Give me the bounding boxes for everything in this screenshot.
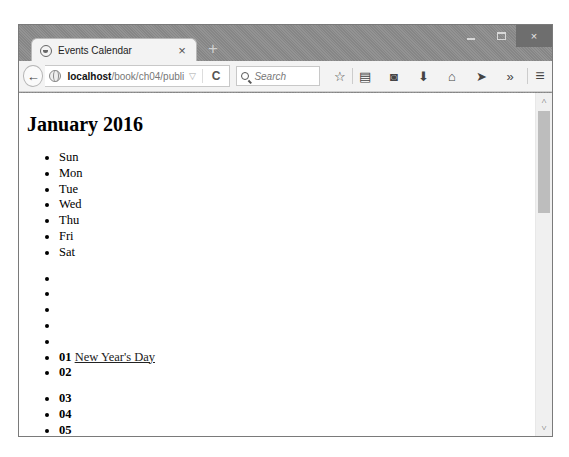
- close-window-button[interactable]: ×: [516, 25, 552, 47]
- weekday-list: Sun Mon Tue Wed Thu Fri Sat: [27, 150, 534, 261]
- vertical-scrollbar[interactable]: ˄ ˅: [535, 93, 552, 436]
- download-icon[interactable]: ⬇: [411, 65, 435, 87]
- day-number: 01: [59, 350, 72, 364]
- event-link-new-years-day[interactable]: New Year's Day: [75, 350, 155, 364]
- scroll-up-icon[interactable]: ˄: [536, 93, 552, 109]
- url-host: localhost: [67, 71, 111, 82]
- scrollbar-thumb[interactable]: [538, 111, 550, 213]
- page-title: January 2016: [27, 113, 534, 136]
- page-content: January 2016 Sun Mon Tue Wed Thu Fri Sat…: [19, 93, 552, 436]
- tab-title: Events Calendar: [58, 45, 172, 56]
- weekday-item: Mon: [59, 166, 534, 182]
- pocket-icon[interactable]: ◙: [382, 65, 406, 87]
- day-cell: 01 New Year's Day: [59, 350, 534, 366]
- tab-events-calendar[interactable]: Events Calendar ×: [31, 38, 197, 62]
- day-cell: 05: [59, 423, 534, 436]
- browser-window: Events Calendar × + × ← localhost/book/c…: [18, 24, 553, 437]
- overflow-icon[interactable]: »: [498, 65, 522, 87]
- day-cell: 04: [59, 407, 534, 423]
- day-cell-empty: [59, 286, 534, 302]
- weekday-item: Wed: [59, 197, 534, 213]
- hamburger-menu-icon[interactable]: ≡: [528, 65, 552, 87]
- week-1-list: 01 New Year's Day 02: [27, 271, 534, 382]
- day-number: 04: [59, 407, 72, 421]
- day-cell-empty: [59, 271, 534, 287]
- toolbar-icons: ☆ ▤ ◙ ⬇ ⌂ ➤ » ≡: [328, 65, 552, 87]
- bookmark-star-icon[interactable]: ☆: [328, 65, 352, 87]
- minimize-button[interactable]: [456, 25, 486, 47]
- new-tab-button[interactable]: +: [203, 38, 223, 60]
- maximize-button[interactable]: [486, 25, 516, 47]
- url-path: /book/ch04/publi: [111, 71, 184, 82]
- title-bar: Events Calendar × + ×: [19, 25, 552, 61]
- weekday-item: Tue: [59, 182, 534, 198]
- url-history-dropdown-icon[interactable]: ▽: [189, 71, 196, 81]
- weekday-item: Fri: [59, 229, 534, 245]
- window-controls: ×: [456, 25, 552, 47]
- minimize-icon: [467, 38, 475, 40]
- search-input[interactable]: Search: [236, 66, 320, 86]
- day-number: 03: [59, 391, 72, 405]
- day-number: 05: [59, 423, 72, 436]
- navigation-toolbar: ← localhost/book/ch04/publi ▽ C Search ☆…: [19, 61, 552, 92]
- calendar-page: January 2016 Sun Mon Tue Wed Thu Fri Sat…: [19, 93, 534, 436]
- day-cell-empty: [59, 302, 534, 318]
- maximize-icon: [497, 32, 506, 40]
- reload-icon[interactable]: C: [202, 69, 228, 83]
- send-icon[interactable]: ➤: [469, 65, 493, 87]
- weekday-item: Sun: [59, 150, 534, 166]
- site-identity-icon[interactable]: [49, 70, 61, 82]
- scroll-down-icon[interactable]: ˅: [536, 420, 552, 436]
- search-icon: [241, 72, 249, 80]
- favicon-icon: [40, 45, 52, 57]
- weekday-item: Thu: [59, 213, 534, 229]
- tab-close-icon[interactable]: ×: [172, 43, 192, 58]
- weekday-item: Sat: [59, 245, 534, 261]
- url-text[interactable]: localhost/book/ch04/publi: [67, 71, 185, 82]
- url-bar[interactable]: localhost/book/ch04/publi ▽ C: [45, 65, 230, 87]
- week-2-list: 03 04 05: [27, 391, 534, 436]
- home-icon[interactable]: ⌂: [440, 65, 464, 87]
- day-cell-empty: [59, 334, 534, 350]
- back-button[interactable]: ←: [23, 65, 43, 87]
- day-cell: 02: [59, 365, 534, 381]
- day-cell: 03: [59, 391, 534, 407]
- search-placeholder: Search: [254, 71, 286, 82]
- reading-list-icon[interactable]: ▤: [353, 65, 377, 87]
- day-number: 02: [59, 365, 72, 379]
- day-cell-empty: [59, 318, 534, 334]
